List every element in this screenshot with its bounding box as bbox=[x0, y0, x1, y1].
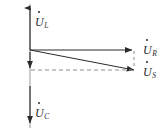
label-u-l: UL bbox=[35, 16, 48, 30]
overdot-u-r bbox=[146, 39, 148, 41]
label-u-r: UR bbox=[143, 44, 157, 58]
label-u-l-subscript: L bbox=[44, 21, 48, 30]
label-u-r-subscript: R bbox=[152, 49, 157, 58]
overdot-u-c bbox=[38, 102, 40, 104]
label-u-c-symbol: U bbox=[35, 106, 44, 120]
label-u-s-subscript: S bbox=[152, 71, 156, 80]
overdot-u-l bbox=[38, 11, 40, 13]
label-u-c-subscript: C bbox=[44, 112, 49, 121]
label-u-c: UC bbox=[35, 107, 49, 121]
phasor-diagram: UL UC UR US bbox=[0, 0, 168, 131]
label-u-l-symbol: U bbox=[35, 15, 44, 29]
label-u-r-symbol: U bbox=[143, 43, 152, 57]
overdot-u-s bbox=[146, 61, 148, 63]
label-u-s-symbol: U bbox=[143, 65, 152, 79]
label-u-s: US bbox=[143, 66, 156, 80]
u-s-phasor-arrow bbox=[30, 50, 134, 70]
